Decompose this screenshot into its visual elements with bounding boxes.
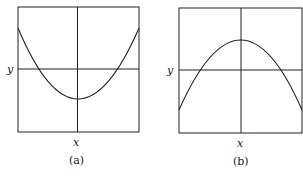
panel-a-plot (18, 7, 139, 132)
panel-a-xlabel: x (73, 136, 79, 149)
panel-b-caption: (b) (233, 155, 249, 168)
figure (0, 0, 303, 180)
panel-b-ylabel: y (167, 64, 173, 77)
panel-a-curve (18, 28, 139, 99)
panel-b-plot (179, 8, 302, 133)
panel-a-ylabel: y (7, 63, 13, 76)
panel-a-caption: (a) (69, 154, 84, 167)
panel-b-xlabel: x (237, 137, 243, 150)
